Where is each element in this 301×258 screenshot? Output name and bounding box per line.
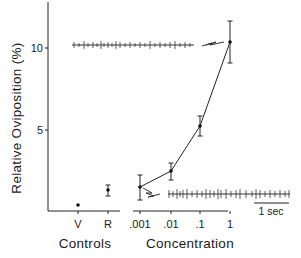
arrow-upper <box>202 42 224 46</box>
data-point-001 <box>138 175 143 200</box>
group-label-concentration: Concentration <box>146 236 234 251</box>
x-tick-r: R <box>104 218 112 230</box>
data-point-1b <box>228 21 233 63</box>
x-tick-001: .001 <box>129 218 150 230</box>
concentration-line <box>140 42 230 187</box>
oviposition-chart: 10 5 Relative Oviposition (%) V R .001 .… <box>0 0 301 258</box>
group-label-controls: Controls <box>59 236 112 251</box>
data-point-v <box>76 203 80 207</box>
y-tick-10: 10 <box>31 42 43 54</box>
x-tick-1b: 1 <box>227 218 233 230</box>
y-axis-title: Relative Oviposition (%) <box>9 42 24 193</box>
x-tick-1a: .1 <box>195 218 204 230</box>
data-point-r <box>106 185 111 196</box>
spike-train-lower <box>168 189 290 199</box>
y-tick-5: 5 <box>37 124 43 136</box>
arrow-lower <box>143 188 160 197</box>
data-point-1a <box>198 116 203 136</box>
scale-bar-label: 1 sec <box>258 205 283 217</box>
x-tick-01: .01 <box>163 218 178 230</box>
spike-train-upper <box>72 41 194 49</box>
x-tick-v: V <box>74 218 82 230</box>
